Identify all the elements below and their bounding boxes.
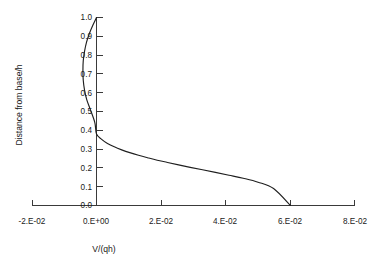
chart-background (0, 0, 389, 269)
velocity-profile-chart: 0.0 0.1 0.2 0.3 0.4 0.5 0.6 0.7 0.8 0.9 … (0, 0, 389, 269)
y-tick-label-6: 0.6 (81, 89, 93, 98)
x-tick-label-2: 2.E-02 (149, 217, 174, 226)
y-tick-label-4: 0.4 (81, 126, 93, 135)
x-tick-label-3: 4.E-02 (213, 217, 238, 226)
y-tick-label-9: 0.9 (81, 32, 93, 41)
y-tick-label-3: 0.3 (81, 145, 93, 154)
y-tick-label-0: 0.0 (81, 201, 93, 210)
x-tick-label-4: 6.E-02 (278, 217, 303, 226)
x-tick-label-0: -2.E-02 (19, 217, 46, 226)
x-tick-label-1: 0.E+00 (83, 217, 110, 226)
y-tick-label-10: 1.0 (81, 13, 93, 22)
x-tick-label-5: 8.E-02 (343, 217, 368, 226)
x-axis-title: V/(qh) (92, 244, 116, 254)
chart-figure: 0.0 0.1 0.2 0.3 0.4 0.5 0.6 0.7 0.8 0.9 … (0, 0, 389, 269)
y-tick-label-8: 0.8 (81, 51, 93, 60)
y-tick-label-2: 0.2 (81, 164, 93, 173)
y-tick-label-1: 0.1 (81, 183, 93, 192)
y-axis-title: Distance from base/h (14, 64, 24, 145)
